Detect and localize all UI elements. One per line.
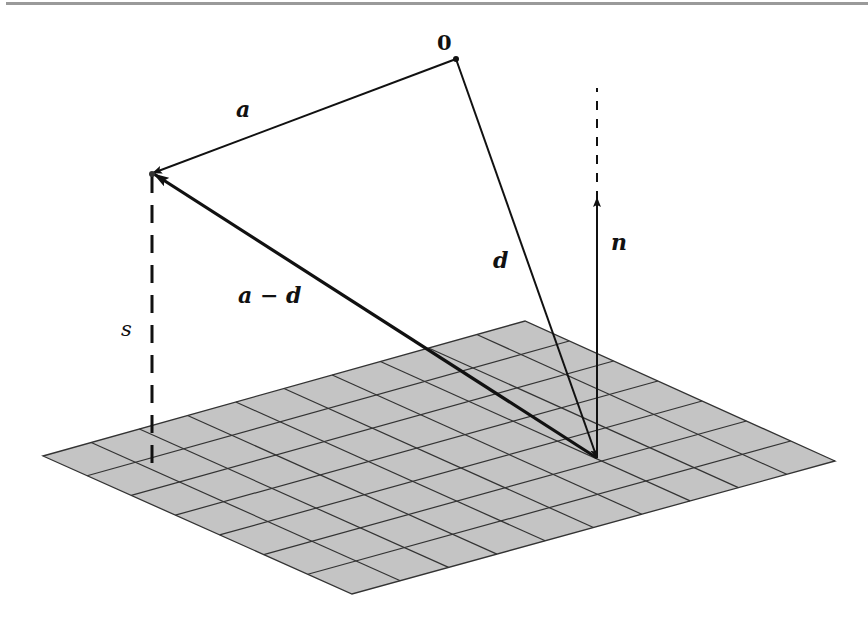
point-a — [149, 171, 155, 177]
vector-a — [153, 59, 456, 173]
grid-plane — [43, 321, 835, 594]
label-n: n — [611, 229, 627, 255]
label-a-minus-d: a − d — [238, 282, 301, 308]
label-origin: 0 — [437, 30, 452, 55]
diagram-canvas: 0 a a − d d n s — [0, 0, 868, 621]
origin-point — [453, 56, 459, 62]
label-s: s — [121, 317, 132, 341]
label-d: d — [493, 247, 508, 273]
label-a: a — [236, 96, 250, 122]
